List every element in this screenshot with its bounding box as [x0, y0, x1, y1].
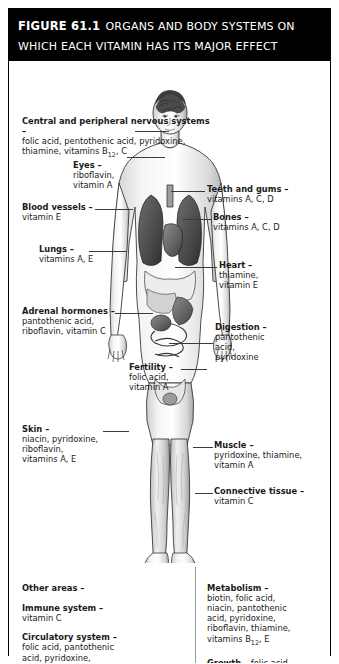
- note-immune-system: Immune system – vitamin C: [22, 603, 182, 623]
- callout-body-line: riboflavin, vitamin C: [22, 327, 152, 337]
- figure-container: FIGURE 61.1 ORGANS AND BODY SYSTEMS ON W…: [8, 8, 331, 656]
- note-heading: Circulatory system –: [22, 632, 182, 642]
- callout-fertility: Fertility – folic acid, vitamin A: [129, 363, 209, 393]
- callout-body-line: pyridoxine: [215, 353, 315, 363]
- note-circulatory-system: Circulatory system – folic acid, pantoth…: [22, 632, 182, 663]
- callout-nervous-systems: Central and peripheral nervous systems –…: [22, 117, 212, 159]
- callout-body-line: vitamin A: [73, 181, 183, 191]
- callout-body-line: vitamin C: [214, 497, 329, 507]
- leader-line-connective: [195, 493, 213, 494]
- bottom-left-notes: Other areas – Immune system – vitamin C …: [22, 583, 182, 663]
- figure-body: Central and peripheral nervous systems –…: [9, 61, 330, 663]
- note-heading: Growth – folic acid,: [207, 658, 327, 663]
- leader-line-muscle: [193, 447, 213, 448]
- note-growth: Growth – folic acid, vitamins A, B12: [207, 658, 327, 663]
- note-line: vitamins B12, E: [207, 634, 327, 647]
- callout-adrenal-hormones: Adrenal hormones – pantothenic acid, rib…: [22, 307, 152, 337]
- callout-body-line: vitamins A, E: [22, 455, 137, 465]
- figure-header: FIGURE 61.1 ORGANS AND BODY SYSTEMS ON W…: [9, 9, 330, 61]
- note-line: riboflavin, thiamine,: [207, 623, 327, 633]
- note-line: niacin, pantothenic: [207, 603, 327, 613]
- note-line: acid, pyridoxine,: [22, 653, 182, 663]
- callout-body-line: vitamins A, C, D: [207, 195, 327, 205]
- callout-body-line: thiamine, vitamins B12, C: [22, 147, 212, 159]
- leader-line-heart: [175, 267, 217, 268]
- callout-heading: Central and peripheral nervous systems –: [22, 117, 212, 137]
- callout-teeth-and-gums: Teeth and gums – vitamins A, C, D: [207, 185, 327, 205]
- note-line: folic acid, pantothenic: [22, 642, 182, 652]
- callout-body-line: vitamin E: [219, 281, 319, 291]
- leader-line-teeth: [171, 191, 205, 192]
- callout-digestion: Digestion – pantothenic acid, pyridoxine: [215, 323, 315, 363]
- note-heading: Immune system –: [22, 603, 182, 613]
- bottom-right-notes: Metabolism – biotin, folic acid, niacin,…: [207, 583, 327, 663]
- callout-body-line: vitamins A, C, D: [213, 223, 330, 233]
- callout-body-line: vitamin A: [214, 461, 329, 471]
- callout-body-line: vitamins A, E: [39, 255, 149, 265]
- note-line: biotin, folic acid,: [207, 593, 327, 603]
- figure-number: FIGURE 61.1: [18, 19, 100, 33]
- other-areas-heading: Other areas –: [22, 583, 182, 593]
- callout-eyes: Eyes – riboflavin, vitamin A: [73, 161, 183, 191]
- callout-lungs: Lungs – vitamins A, E: [39, 245, 149, 265]
- callout-body-line: vitamin A: [129, 383, 209, 393]
- note-metabolism: Metabolism – biotin, folic acid, niacin,…: [207, 583, 327, 647]
- note-line: acid, pyridoxine,: [207, 613, 327, 623]
- callout-connective-tissue: Connective tissue – vitamin C: [214, 487, 329, 507]
- callout-body-line: vitamin E: [22, 213, 142, 223]
- leader-line-digestion: [169, 343, 213, 344]
- note-heading: Metabolism –: [207, 583, 327, 593]
- callout-bones: Bones – vitamins A, C, D: [213, 213, 330, 233]
- callout-skin: Skin – niacin, pyridoxine, riboflavin, v…: [22, 425, 137, 465]
- callout-blood-vessels: Blood vessels – vitamin E: [22, 203, 142, 223]
- leader-line-bones: [183, 219, 211, 220]
- callout-muscle: Muscle – pyridoxine, thiamine, vitamin A: [214, 441, 329, 471]
- bottom-column-divider: [195, 567, 196, 663]
- note-line: vitamin C: [22, 613, 182, 623]
- callout-heart: Heart – thiamine, vitamin E: [219, 261, 319, 291]
